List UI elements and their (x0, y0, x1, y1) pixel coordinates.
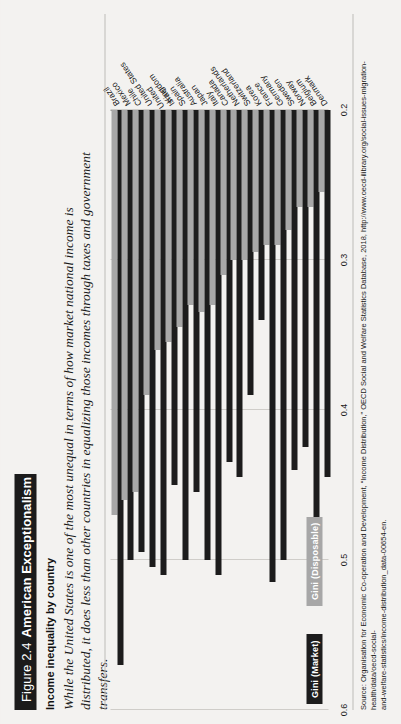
figure-title: American Exceptionalism (18, 477, 33, 638)
bar-group (186, 110, 197, 710)
bar-group (143, 110, 154, 710)
bar-group (230, 110, 241, 710)
bar-group (208, 110, 219, 710)
bar-group (252, 110, 263, 710)
bar-group (295, 110, 306, 710)
figure-description: While the United States is one of the mo… (59, 150, 110, 710)
divider-top (104, 14, 105, 710)
bar-disposable (198, 110, 204, 313)
bar-disposable (176, 110, 182, 328)
bar-disposable (230, 110, 236, 260)
bar-disposable (165, 110, 171, 343)
bar-group (165, 110, 176, 710)
tick-label: 0.5 (338, 554, 348, 567)
bar-group (197, 110, 208, 710)
bar-group (175, 110, 186, 710)
bar-disposable (318, 110, 324, 193)
legend-market-label: Gini (Market) (306, 634, 322, 704)
source-line-1: Source: Organisation for Economic Co-ope… (358, 20, 378, 710)
figure-subtitle: Income inequality by country (43, 558, 55, 710)
plot-area (110, 110, 328, 710)
legend-item-disposable: Gini (Disposable) (306, 517, 322, 606)
bar-disposable (143, 110, 149, 395)
figure-number: Figure 2.4 (18, 642, 33, 702)
bar-disposable (252, 110, 258, 253)
bar-group (284, 110, 295, 710)
source-line-2: and-welfare-statistics/income-distributi… (378, 20, 388, 710)
bar-disposable (209, 110, 215, 305)
bar-group (306, 110, 317, 710)
bar-group (241, 110, 252, 710)
bar-chart: BrazilMexicoChileUnited StatesUnited Kin… (110, 14, 348, 710)
bar-group (121, 110, 132, 710)
bar-disposable (307, 110, 313, 208)
bar-disposable (241, 110, 247, 260)
bar-disposable (121, 110, 127, 500)
bar-disposable (285, 110, 291, 230)
bar-group (132, 110, 143, 710)
bar-group (110, 110, 121, 710)
tick-label: 0.3 (338, 254, 348, 267)
tick-label: 0.2 (338, 104, 348, 117)
bar-group (154, 110, 165, 710)
tick-label: 0.6 (338, 704, 348, 717)
figure-page: Figure 2.4 American Exceptionalism Incom… (0, 0, 401, 724)
bar-disposable (274, 110, 280, 245)
bar-group (317, 110, 328, 710)
bar-disposable (263, 110, 269, 245)
figure-container: Figure 2.4 American Exceptionalism Incom… (0, 0, 401, 724)
bar-group (263, 110, 274, 710)
bar-disposable (132, 110, 138, 493)
legend-item-market: Gini (Market) (306, 634, 322, 704)
bar-market (324, 110, 330, 478)
bar-disposable (296, 110, 302, 208)
source-note: Source: Organisation for Economic Co-ope… (358, 20, 388, 710)
legend-disposable-label: Gini (Disposable) (306, 517, 322, 606)
bar-group (274, 110, 285, 710)
divider-bottom (352, 14, 353, 710)
bar-disposable (187, 110, 193, 305)
bar-disposable (220, 110, 226, 275)
figure-title-bar: Figure 2.4 American Exceptionalism (14, 474, 36, 710)
bar-disposable (154, 110, 160, 350)
bar-group (219, 110, 230, 710)
bar-disposable (111, 110, 117, 515)
tick-label: 0.4 (338, 404, 348, 417)
